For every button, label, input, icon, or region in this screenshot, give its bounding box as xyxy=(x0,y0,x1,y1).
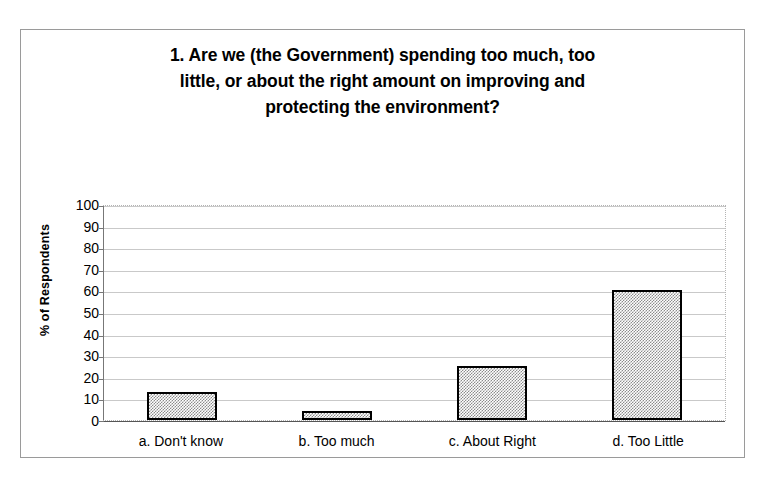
x-axis-tick-label: b. Too much xyxy=(259,433,415,449)
x-axis-tick-label: d. Too Little xyxy=(570,433,726,449)
y-axis-tick-mark xyxy=(99,249,104,250)
y-axis-tick-label: 10 xyxy=(61,392,99,406)
y-axis-tick-label: 70 xyxy=(61,263,99,277)
plot-area xyxy=(103,205,726,421)
y-axis-title: % of Respondents xyxy=(35,180,55,380)
y-axis-tick-label: 60 xyxy=(61,284,99,298)
gridline xyxy=(104,421,725,422)
bars-layer xyxy=(104,206,725,420)
y-axis-tick-mark xyxy=(99,400,104,401)
y-axis-tick-labels: 1009080706050403020100 xyxy=(61,205,99,421)
bar-slot xyxy=(570,206,725,420)
y-axis-tick-mark xyxy=(99,292,104,293)
y-axis-tick-label: 40 xyxy=(61,328,99,342)
y-axis-tick-mark xyxy=(99,228,104,229)
bar[interactable] xyxy=(302,411,372,420)
y-axis-tick-label: 50 xyxy=(61,306,99,320)
y-axis-tick-mark xyxy=(99,314,104,315)
bar-slot xyxy=(104,206,259,420)
y-axis-tick-label: 20 xyxy=(61,371,99,385)
y-axis-tick-label: 90 xyxy=(61,220,99,234)
y-axis-tick-label: 100 xyxy=(61,198,99,212)
chart-card: 1. Are we (the Government) spending too … xyxy=(20,29,745,458)
chart-body: % of Respondents 1009080706050403020100 … xyxy=(21,150,746,450)
x-axis-tick-label: c. About Right xyxy=(415,433,571,449)
y-axis-tick-label: 30 xyxy=(61,349,99,363)
x-axis-tick-label: a. Don't know xyxy=(103,433,259,449)
y-axis-tick-label: 80 xyxy=(61,241,99,255)
bar-slot xyxy=(415,206,570,420)
chart-title: 1. Are we (the Government) spending too … xyxy=(21,42,744,120)
y-axis-tick-mark xyxy=(99,379,104,380)
bar[interactable] xyxy=(457,366,527,420)
y-axis-tick-mark xyxy=(99,271,104,272)
x-axis-tick-labels: a. Don't knowb. Too muchc. About Rightd.… xyxy=(103,433,726,449)
y-axis-tick-mark xyxy=(99,206,104,207)
y-axis-tick-mark xyxy=(99,336,104,337)
y-axis-tick-mark xyxy=(99,421,104,422)
y-axis-tick-label: 0 xyxy=(61,414,99,428)
y-axis-title-label: % of Respondents xyxy=(38,224,52,336)
bar[interactable] xyxy=(612,290,682,420)
y-axis-tick-mark xyxy=(99,357,104,358)
chart-title-line-2: little, or about the right amount on imp… xyxy=(21,68,744,94)
chart-title-line-3: protecting the environment? xyxy=(21,94,744,120)
bar-slot xyxy=(259,206,414,420)
chart-title-line-1: 1. Are we (the Government) spending too … xyxy=(21,42,744,68)
bar[interactable] xyxy=(147,392,217,420)
